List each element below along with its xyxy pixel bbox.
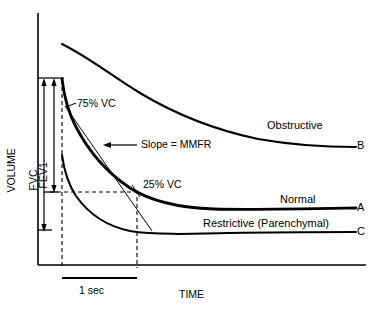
mmfr-callout-arrow — [103, 142, 137, 148]
fev1-measurement-arrow — [51, 78, 56, 193]
vc75-label: 75% VC — [77, 98, 116, 109]
curve-letter-a: A — [357, 202, 364, 213]
fev1-label: FEV1 — [38, 162, 49, 188]
curve-label-restrictive: Restrictive (Parenchymal) — [203, 218, 329, 229]
curve-label-obstructive: Obstructive — [267, 120, 323, 131]
one-second-label: 1 sec — [79, 285, 104, 296]
curve-label-normal: Normal — [280, 194, 315, 205]
spirogram-figure: VOLUME FVC FEV1 75% VC 25% VC Slope = MM… — [0, 0, 368, 311]
x-axis-label: TIME — [179, 289, 204, 300]
vc25-label: 25% VC — [143, 179, 182, 190]
mmfr-slope-label: Slope = MMFR — [141, 139, 211, 150]
fvc-measurement-arrow — [41, 78, 46, 232]
curve-obstructive — [62, 44, 356, 147]
curve-letter-c: C — [357, 226, 365, 237]
y-axis-label: VOLUME — [6, 148, 17, 192]
curve-letter-b: B — [357, 140, 364, 151]
spirogram-canvas — [0, 0, 368, 311]
mmfr-slope-line — [65, 106, 152, 231]
